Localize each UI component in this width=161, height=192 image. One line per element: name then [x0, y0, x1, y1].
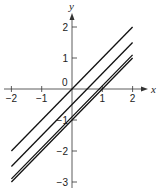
y-tick-label: −3: [57, 177, 69, 188]
x-tick-label: −2: [6, 93, 18, 104]
y-tick-label: −1: [57, 115, 69, 126]
y-tick-label: −2: [57, 146, 69, 157]
x-tick-label: 1: [100, 93, 106, 104]
x-tick-label: −1: [36, 93, 48, 104]
y-axis-label: y: [68, 0, 74, 12]
y-tick-label: 1: [62, 53, 68, 64]
x-axis-arrow-icon: [141, 87, 148, 92]
origin-label: 0: [62, 77, 68, 88]
y-axis-arrow-icon: [70, 13, 75, 20]
x-axis-label: x: [150, 83, 156, 95]
x-tick-label: 2: [130, 93, 136, 104]
chart: −2−11221−1−2−3 x y 0: [0, 0, 161, 192]
ticks: −2−11221−1−2−3: [6, 22, 136, 188]
y-tick-label: 2: [62, 22, 68, 33]
